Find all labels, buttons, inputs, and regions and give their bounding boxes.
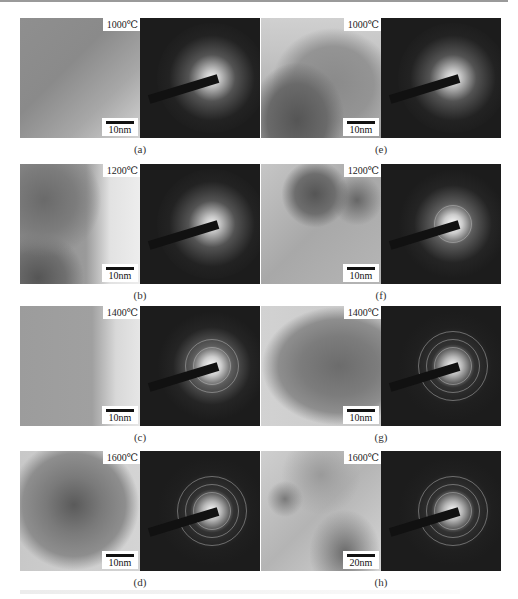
tem-image-d: 1600℃10nm <box>20 451 140 571</box>
subfigure-label-f: (f) <box>361 289 401 301</box>
saed-pattern-d <box>140 451 260 571</box>
scale-bar: 10nm <box>102 118 138 136</box>
scale-bar-text: 10nm <box>102 270 138 281</box>
temperature-label: 1600℃ <box>344 451 381 464</box>
scale-bar: 10nm <box>343 406 379 424</box>
tem-image-g: 1400℃10nm <box>261 306 381 426</box>
figure-caption-faded <box>20 590 460 594</box>
subfigure-label-e: (e) <box>361 143 401 155</box>
temperature-label: 1000℃ <box>103 18 140 31</box>
scale-bar: 10nm <box>102 551 138 569</box>
subfigure-label-g: (g) <box>361 431 401 443</box>
scale-bar: 10nm <box>102 264 138 282</box>
subfigure-label-c: (c) <box>120 431 160 443</box>
tem-image-e: 1000℃10nm <box>261 18 381 138</box>
subfigure-label-d: (d) <box>120 576 160 588</box>
scale-bar-text: 10nm <box>102 124 138 135</box>
scale-bar-text: 10nm <box>102 557 138 568</box>
tem-image-a: 1000℃10nm <box>20 18 140 138</box>
subfigure-label-b: (b) <box>120 289 160 301</box>
scale-bar-text: 10nm <box>343 124 379 135</box>
scale-bar: 10nm <box>343 264 379 282</box>
scale-bar: 20nm <box>343 551 379 569</box>
scale-bar: 10nm <box>102 406 138 424</box>
temperature-label: 1200℃ <box>103 164 140 177</box>
temperature-label: 1400℃ <box>103 306 140 319</box>
saed-pattern-h <box>381 451 501 571</box>
saed-pattern-g <box>381 306 501 426</box>
scale-bar-text: 10nm <box>102 412 138 423</box>
temperature-label: 1600℃ <box>103 451 140 464</box>
temperature-label: 1000℃ <box>344 18 381 31</box>
scale-bar-text: 10nm <box>343 412 379 423</box>
scale-bar: 10nm <box>343 118 379 136</box>
saed-pattern-a <box>140 18 260 138</box>
scale-bar-text: 20nm <box>343 557 379 568</box>
scale-bar-text: 10nm <box>343 270 379 281</box>
tem-image-h: 1600℃20nm <box>261 451 381 571</box>
page-top-rule <box>0 0 508 2</box>
tem-image-f: 1200℃10nm <box>261 164 381 284</box>
temperature-label: 1200℃ <box>344 164 381 177</box>
temperature-label: 1400℃ <box>344 306 381 319</box>
saed-pattern-c <box>140 306 260 426</box>
saed-pattern-b <box>140 164 260 284</box>
saed-pattern-f <box>381 164 501 284</box>
saed-pattern-e <box>381 18 501 138</box>
tem-image-c: 1400℃10nm <box>20 306 140 426</box>
tem-image-b: 1200℃10nm <box>20 164 140 284</box>
subfigure-label-h: (h) <box>361 576 401 588</box>
subfigure-label-a: (a) <box>120 143 160 155</box>
